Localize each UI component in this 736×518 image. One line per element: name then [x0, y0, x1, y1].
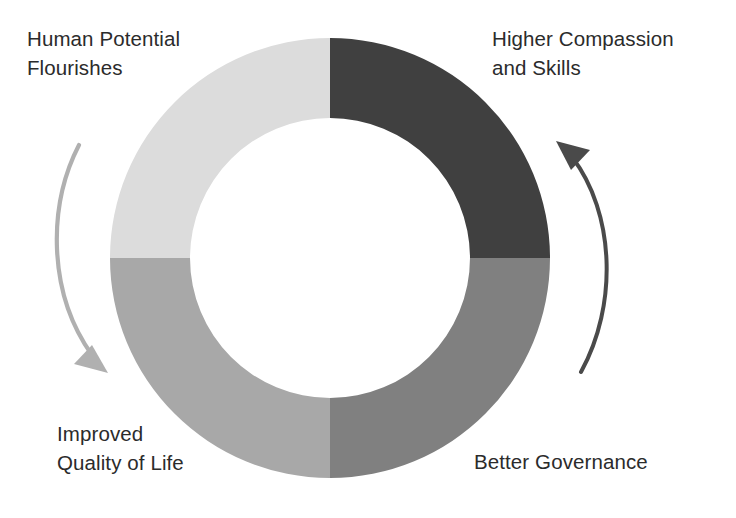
left-downward-curved-arrow: [57, 145, 108, 373]
donut-segment-better-governance[interactable]: [330, 258, 550, 478]
left-arrow-shaft: [57, 145, 92, 355]
right-arrow-shaft: [572, 157, 607, 372]
cycle-diagram-canvas: Human Potential Flourishes Higher Compas…: [0, 0, 736, 518]
right-arrow-head: [556, 141, 590, 170]
segment-label-improved-quality: Improved Quality of Life: [57, 419, 184, 477]
segment-label-human-potential: Human Potential Flourishes: [27, 24, 180, 82]
left-arrow-head: [74, 345, 108, 373]
right-upward-curved-arrow: [556, 141, 607, 372]
segment-label-higher-compassion: Higher Compassion and Skills: [492, 24, 674, 82]
segment-label-better-governance: Better Governance: [474, 447, 648, 476]
